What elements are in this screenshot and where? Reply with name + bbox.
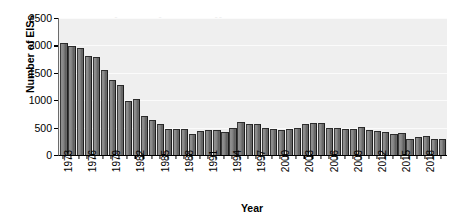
x-axis-label-slot bbox=[99, 160, 107, 200]
x-axis-tick-mark bbox=[127, 155, 128, 159]
x-axis-label-slot: 1991 bbox=[204, 160, 212, 200]
x-axis-tick-mark bbox=[248, 155, 249, 159]
x-axis-label-slot bbox=[67, 160, 75, 200]
bar bbox=[60, 43, 67, 155]
x-axis-label-slot: 1985 bbox=[156, 160, 164, 200]
y-axis-tick-label: 500 bbox=[34, 122, 52, 134]
x-axis-tick-mark bbox=[79, 155, 80, 159]
x-axis-label-slot: 1979 bbox=[107, 160, 115, 200]
x-axis-tick-mark bbox=[392, 155, 393, 159]
x-axis-label-slot bbox=[381, 160, 389, 200]
x-axis-label-slot bbox=[292, 160, 300, 200]
x-axis-label-slot bbox=[333, 160, 341, 200]
x-axis-label-slot bbox=[115, 160, 123, 200]
x-axis-label-slot bbox=[341, 160, 349, 200]
bar bbox=[125, 101, 132, 155]
y-axis-tick-mark bbox=[54, 18, 58, 19]
bar bbox=[270, 129, 277, 155]
x-axis-label-slot bbox=[220, 160, 228, 200]
bar-series bbox=[59, 18, 447, 155]
bar bbox=[77, 48, 84, 155]
x-axis-tick-mark bbox=[151, 155, 152, 159]
x-axis-label-slot bbox=[405, 160, 413, 200]
bar bbox=[68, 46, 75, 155]
x-axis-label-slot bbox=[437, 160, 445, 200]
x-axis-tick-mark bbox=[223, 155, 224, 159]
x-axis-label-slot bbox=[75, 160, 83, 200]
y-axis-tick-mark bbox=[54, 155, 58, 156]
bar bbox=[246, 124, 253, 155]
bar bbox=[294, 128, 301, 155]
x-axis-label-slot: 1997 bbox=[252, 160, 260, 200]
y-axis-tick-mark bbox=[54, 73, 58, 74]
x-axis-tick-mark bbox=[368, 155, 369, 159]
bar bbox=[221, 132, 228, 155]
x-axis-tick-mark bbox=[320, 155, 321, 159]
bar bbox=[109, 80, 116, 155]
x-axis-label-slot bbox=[365, 160, 373, 200]
x-axis-label-slot: 2012 bbox=[373, 160, 381, 200]
bar bbox=[85, 56, 92, 155]
y-axis-tick-mark bbox=[54, 128, 58, 129]
x-axis-label-slot bbox=[123, 160, 131, 200]
bar bbox=[415, 137, 422, 155]
bar bbox=[149, 120, 156, 155]
x-axis-label-slot: 2000 bbox=[276, 160, 284, 200]
bar bbox=[197, 131, 204, 155]
x-axis-label-slot: 1973 bbox=[59, 160, 67, 200]
y-axis-tick-label: 1500 bbox=[29, 67, 52, 79]
x-axis-label-slot bbox=[91, 160, 99, 200]
x-axis-tick-mark bbox=[296, 155, 297, 159]
x-axis-label-slot bbox=[139, 160, 147, 200]
x-axis-label-slot bbox=[413, 160, 421, 200]
bar bbox=[318, 123, 325, 155]
bar bbox=[342, 129, 349, 155]
x-axis-label-slot bbox=[236, 160, 244, 200]
bar bbox=[439, 139, 446, 155]
plot-area bbox=[58, 18, 447, 156]
y-axis-tick-mark bbox=[54, 45, 58, 46]
y-axis-tick-label: 2500 bbox=[29, 12, 52, 24]
x-axis-label-slot bbox=[357, 160, 365, 200]
x-axis-tick-mark bbox=[344, 155, 345, 159]
x-axis-label-slot: 1982 bbox=[131, 160, 139, 200]
x-axis-tick-mark bbox=[103, 155, 104, 159]
eis-bar-chart-figure: Policy Act (NEPA) Number of EISs 0500100… bbox=[0, 0, 465, 218]
x-axis-label-slot: 1988 bbox=[180, 160, 188, 200]
x-axis-tick-mark bbox=[417, 155, 418, 159]
x-axis-label-slot bbox=[260, 160, 268, 200]
x-axis-label-slot bbox=[268, 160, 276, 200]
x-axis-title: Year bbox=[58, 202, 446, 214]
x-axis-label-slot bbox=[308, 160, 316, 200]
bar bbox=[93, 57, 100, 155]
x-axis-label-slot bbox=[284, 160, 292, 200]
x-axis-label-slot bbox=[164, 160, 172, 200]
bar bbox=[101, 70, 108, 155]
x-axis-label-slot bbox=[148, 160, 156, 200]
y-axis-tick-label: 1000 bbox=[29, 94, 52, 106]
x-axis-label-slot bbox=[389, 160, 397, 200]
y-axis-tick-mark bbox=[54, 100, 58, 101]
bar bbox=[366, 130, 373, 155]
y-axis-tick-labels: 05001000150020002500 bbox=[0, 0, 52, 218]
x-axis-tick-mark bbox=[199, 155, 200, 159]
x-axis-label-slot: 2018 bbox=[421, 160, 429, 200]
x-axis-label-slot bbox=[212, 160, 220, 200]
x-axis-label-slot: 1976 bbox=[83, 160, 91, 200]
y-axis-tick-label: 0 bbox=[46, 149, 52, 161]
y-axis-tick-label: 2000 bbox=[29, 39, 52, 51]
bar bbox=[173, 129, 180, 155]
x-axis-label-slot bbox=[317, 160, 325, 200]
x-axis-tick-mark bbox=[272, 155, 273, 159]
x-axis-label-slot bbox=[244, 160, 252, 200]
x-axis-label-slot bbox=[188, 160, 196, 200]
x-axis-label-slot: 2015 bbox=[397, 160, 405, 200]
x-axis-label-slot: 2006 bbox=[325, 160, 333, 200]
x-axis-label-slot: 2003 bbox=[300, 160, 308, 200]
x-axis-tick-labels: 1973197619791982198519881991199419972000… bbox=[58, 160, 446, 200]
bar bbox=[390, 134, 397, 155]
x-axis-tick-mark bbox=[175, 155, 176, 159]
bar bbox=[117, 85, 124, 155]
x-axis-tick-mark bbox=[441, 155, 442, 159]
bar bbox=[133, 99, 140, 155]
